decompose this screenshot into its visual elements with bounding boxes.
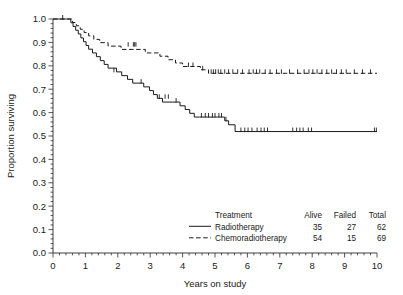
- x-tick-label: 0: [50, 260, 55, 271]
- y-tick-label: 0.5: [33, 130, 46, 141]
- survival-chart-figure: 0.00.10.20.30.40.50.60.70.80.91.0 012345…: [0, 0, 403, 295]
- x-tick-label: 7: [277, 260, 282, 271]
- legend-row-total: 69: [377, 234, 387, 243]
- y-tick-label: 0.2: [33, 201, 46, 212]
- legend-row-alive: 35: [313, 223, 323, 232]
- figure-background: [0, 0, 403, 295]
- y-tick-label: 0.0: [33, 247, 46, 258]
- y-tick-label: 0.8: [33, 60, 46, 71]
- y-tick-label: 0.7: [33, 84, 46, 95]
- x-tick-label: 6: [245, 260, 250, 271]
- legend-row-alive: 54: [313, 234, 323, 243]
- kaplan-meier-plot: 0.00.10.20.30.40.50.60.70.80.91.0 012345…: [0, 0, 403, 295]
- x-tick-label: 4: [180, 260, 185, 271]
- legend-header-alive: Alive: [304, 211, 322, 220]
- legend-header-failed: Failed: [334, 211, 357, 220]
- legend-header-treatment: Treatment: [215, 211, 253, 220]
- y-tick-label: 1.0: [33, 13, 46, 24]
- x-tick-label: 10: [372, 260, 383, 271]
- y-tick-label: 0.1: [33, 224, 46, 235]
- y-tick-label: 0.3: [33, 177, 46, 188]
- x-axis-title: Years on study: [184, 278, 247, 289]
- legend-header-total: Total: [369, 211, 386, 220]
- y-axis-title: Proportion surviving: [5, 94, 16, 178]
- x-tick-label: 3: [148, 260, 153, 271]
- y-tick-label: 0.6: [33, 107, 46, 118]
- y-tick-label: 0.9: [33, 37, 46, 48]
- y-tick-label: 0.4: [33, 154, 46, 165]
- x-tick-label: 5: [212, 260, 217, 271]
- legend-row-total: 62: [377, 223, 387, 232]
- x-tick-label: 8: [310, 260, 315, 271]
- x-tick-label: 2: [115, 260, 120, 271]
- legend-row-label: Chemoradiotherapy: [215, 234, 288, 243]
- legend-row-label: Radiotherapy: [215, 223, 265, 232]
- x-tick-label: 1: [83, 260, 88, 271]
- legend-row-failed: 15: [347, 234, 357, 243]
- x-tick-label: 9: [342, 260, 347, 271]
- legend-row-failed: 27: [347, 223, 357, 232]
